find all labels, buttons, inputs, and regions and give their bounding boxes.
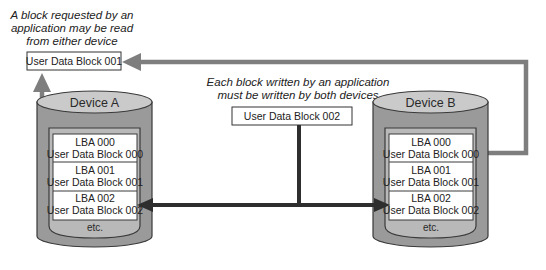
device-b-cylinder: Device B LBA 000 User Data Block 000 LBA… bbox=[373, 91, 488, 247]
device-b-block-list: LBA 000 User Data Block 000 LBA 001 User… bbox=[383, 134, 479, 220]
svg-text:application may be read: application may be read bbox=[11, 22, 134, 34]
device-a-cylinder: Device A LBA 000 User Data Block 000 LBA… bbox=[37, 91, 152, 247]
svg-text:LBA 002: LBA 002 bbox=[75, 192, 115, 204]
read-caption: A block requested by an application may … bbox=[10, 9, 134, 47]
read-block-box: User Data Block 001 bbox=[26, 52, 122, 70]
svg-text:from either device: from either device bbox=[26, 35, 117, 47]
svg-text:User Data Block 000: User Data Block 000 bbox=[383, 148, 479, 160]
device-b-title: Device B bbox=[405, 96, 455, 110]
svg-text:must be written by both device: must be written by both devices bbox=[217, 89, 378, 101]
svg-text:User Data Block 002: User Data Block 002 bbox=[47, 204, 143, 216]
write-block-box: User Data Block 002 bbox=[232, 107, 352, 125]
svg-text:LBA 001: LBA 001 bbox=[75, 164, 115, 176]
device-a-etc: etc. bbox=[87, 222, 103, 233]
arrowhead-left-icon bbox=[122, 53, 141, 71]
svg-text:Each block written by an appli: Each block written by an application bbox=[207, 76, 390, 88]
svg-text:User Data Block 001: User Data Block 001 bbox=[383, 176, 479, 188]
write-caption: Each block written by an application mus… bbox=[207, 76, 390, 101]
device-a-block-list: LBA 000 User Data Block 000 LBA 001 User… bbox=[47, 134, 143, 220]
svg-text:LBA 001: LBA 001 bbox=[411, 164, 451, 176]
device-a-title: Device A bbox=[70, 96, 120, 110]
svg-text:LBA 000: LBA 000 bbox=[411, 136, 451, 148]
svg-text:LBA 000: LBA 000 bbox=[75, 136, 115, 148]
svg-text:User Data Block 000: User Data Block 000 bbox=[47, 148, 143, 160]
svg-text:User Data Block 001: User Data Block 001 bbox=[47, 176, 143, 188]
device-b-etc: etc. bbox=[423, 222, 439, 233]
svg-text:User Data Block 001: User Data Block 001 bbox=[26, 55, 122, 67]
arrowhead-up-icon bbox=[33, 73, 51, 92]
svg-text:User Data Block 002: User Data Block 002 bbox=[244, 110, 340, 122]
svg-text:LBA 002: LBA 002 bbox=[411, 192, 451, 204]
svg-text:A block requested by an: A block requested by an bbox=[10, 9, 134, 21]
write-path bbox=[137, 125, 390, 212]
mirroring-diagram: A block requested by an application may … bbox=[0, 0, 546, 270]
svg-text:User Data Block 002: User Data Block 002 bbox=[383, 204, 479, 216]
